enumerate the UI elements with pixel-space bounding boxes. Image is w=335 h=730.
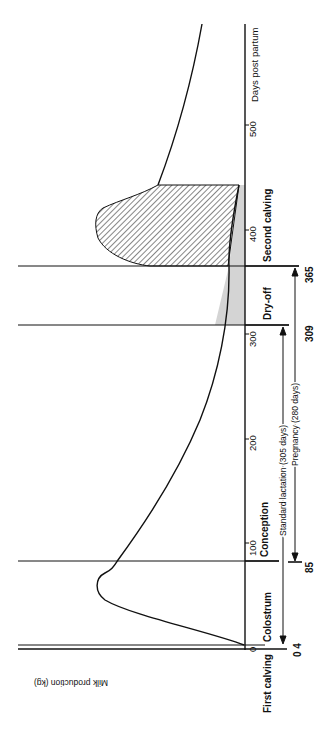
conception-label: Conception — [259, 502, 270, 557]
tick-label-400: 400 — [247, 226, 258, 242]
milk-production-curve-tail — [158, 24, 202, 185]
day-365-label: 365 — [304, 266, 315, 283]
standard-lactation-label: Standard lactation (305 days) — [278, 425, 288, 536]
day-0-4-label: 0 4 — [292, 643, 303, 657]
tick-label-100: 100 — [247, 540, 258, 556]
y-axis-title: Milk production (kg) — [34, 678, 108, 688]
x-axis-title: Days post partum — [249, 27, 260, 102]
day-85-label: 85 — [304, 561, 315, 573]
pregnancy-label: Pregnancy (280 days) — [290, 383, 300, 466]
colostrum-label: Colostrum — [262, 592, 273, 642]
day-309-label: 309 — [304, 325, 315, 342]
second-lactation-hatched-area — [96, 185, 239, 266]
first-calving-label: First calving — [262, 654, 273, 713]
tick-label-200: 200 — [247, 435, 258, 451]
dry-off-label: Dry-off — [262, 287, 273, 320]
tick-label-300: 300 — [247, 331, 258, 347]
tick-label-0: 0 — [247, 647, 258, 652]
tick-label-500: 500 — [247, 121, 258, 137]
lactation-chart: Days post partum Milk production (kg) 0 … — [0, 0, 335, 730]
second-calving-label: Second calving — [262, 189, 273, 262]
